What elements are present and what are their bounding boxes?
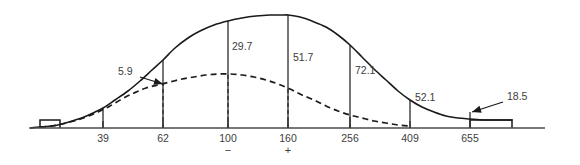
tail-step-group xyxy=(40,120,512,128)
value-label-group: 5.929.751.772.152.118.5 xyxy=(118,40,528,113)
tick-label: 160 xyxy=(279,132,297,144)
tick-label: 409 xyxy=(401,132,419,144)
divider-line-group xyxy=(103,15,470,128)
callout-arrow-icon xyxy=(472,106,482,113)
solid-curve xyxy=(30,15,512,128)
tick-label: 655 xyxy=(461,132,479,144)
value-label: 52.1 xyxy=(415,91,436,103)
tail-step xyxy=(470,120,512,128)
tick-label: 100 xyxy=(219,132,237,144)
tick-label-group: 3962100−160+256409655 xyxy=(97,132,479,156)
value-label: 18.5 xyxy=(507,90,528,102)
value-label: 29.7 xyxy=(232,40,253,52)
tick-label: 62 xyxy=(157,132,169,144)
tick-label: 256 xyxy=(341,132,359,144)
distribution-chart: 3962100−160+256409655 5.929.751.772.152.… xyxy=(0,0,580,165)
solid-curve-group xyxy=(30,15,512,128)
value-label: 72.1 xyxy=(355,64,376,76)
tick-label: 39 xyxy=(97,132,109,144)
tick-sign-label: + xyxy=(285,144,291,156)
value-label: 5.9 xyxy=(118,65,133,77)
callout-arrow-icon xyxy=(153,78,163,85)
dashed-curve-group xyxy=(40,74,410,127)
value-label: 51.7 xyxy=(293,51,314,63)
tick-mark-group xyxy=(103,121,470,128)
dashed-curve xyxy=(40,74,410,127)
tick-sign-label: − xyxy=(225,144,231,156)
chart-canvas: 3962100−160+256409655 5.929.751.772.152.… xyxy=(0,0,580,165)
